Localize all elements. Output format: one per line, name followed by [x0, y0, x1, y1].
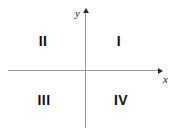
quadrant-label-three: III: [38, 93, 51, 107]
coordinate-plane-diagram: y x I II III IV: [0, 0, 176, 136]
y-axis-label: y: [75, 8, 80, 19]
quadrant-label-four: IV: [114, 93, 128, 107]
arrow-up-icon: [83, 8, 89, 13]
y-axis-line: [85, 11, 86, 128]
quadrant-label-two: II: [39, 34, 48, 48]
x-axis-label: x: [163, 74, 168, 85]
quadrant-label-one: I: [117, 34, 121, 48]
